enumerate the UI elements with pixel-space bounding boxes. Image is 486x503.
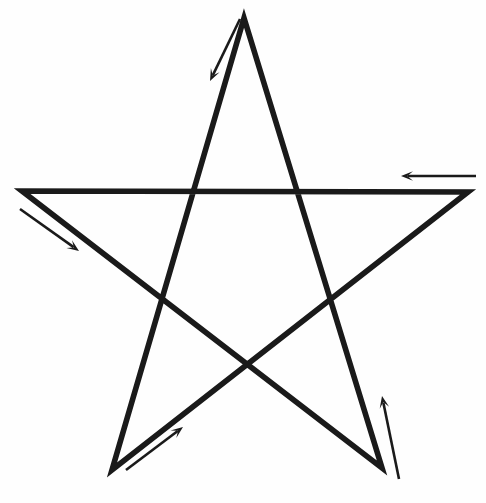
figure-background bbox=[0, 0, 486, 503]
pentagram-canvas bbox=[0, 0, 486, 503]
pentagram-figure bbox=[0, 0, 486, 503]
